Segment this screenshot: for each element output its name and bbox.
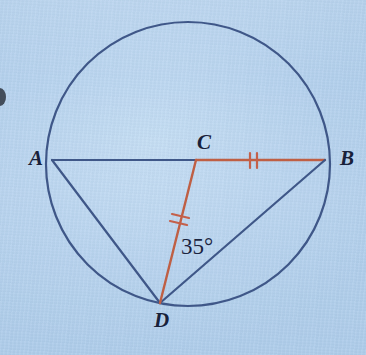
vertex-label-a: A [29,148,43,169]
geometry-figure: A B C D 35° [0,0,366,355]
angle-label-35-degrees: 35° [181,235,213,258]
vertex-label-b: B [340,148,354,169]
vertex-label-c: C [197,132,211,153]
diagram-canvas [0,0,366,355]
segment-cd [160,160,196,303]
tick-marks-cd [170,214,189,225]
circle-outline [46,22,330,306]
vertex-label-d: D [154,310,169,331]
segment-db [160,160,325,303]
tick-cd-2 [170,221,187,225]
segment-ad [52,160,160,303]
